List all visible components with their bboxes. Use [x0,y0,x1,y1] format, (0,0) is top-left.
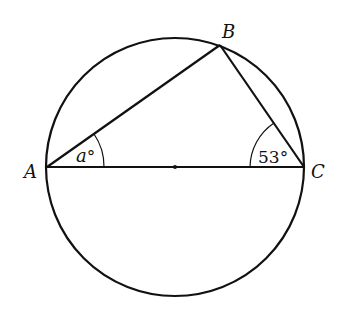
angle-label-a: a° [76,145,95,166]
label-b: B [221,21,235,42]
center-point [173,165,177,169]
angle-arc-a [94,134,104,167]
label-c: C [311,161,325,182]
side-ab [47,45,220,167]
label-a: A [22,161,37,182]
angle-label-c: 53° [258,147,288,167]
geometry-diagram: A B C a° 53° [0,0,344,319]
